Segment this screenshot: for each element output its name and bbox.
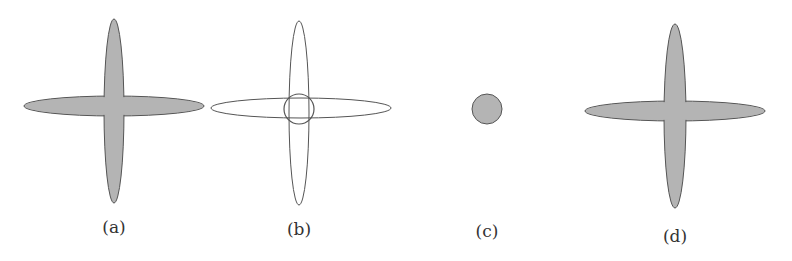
panel-label-d: (d): [663, 226, 687, 246]
filled-circle: [472, 94, 502, 124]
panel-b: (b): [211, 21, 391, 239]
panel-label-a: (a): [102, 217, 125, 237]
vertical-ellipse-outline: [289, 21, 309, 205]
panel-label-c: (c): [476, 221, 499, 241]
panel-d: (d): [585, 24, 765, 246]
panel-label-b: (b): [287, 219, 311, 239]
panel-c: (c): [472, 94, 502, 241]
figure-canvas: (a) (b) (c) (d): [0, 0, 792, 261]
horizontal-ellipse-outline: [211, 98, 391, 118]
panel-a: (a): [24, 19, 204, 237]
